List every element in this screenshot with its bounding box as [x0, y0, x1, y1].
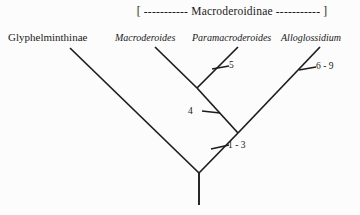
branch-macroderoides [155, 47, 197, 88]
branch-alloglossidium [238, 47, 320, 133]
character-mark-label-5: 5 [229, 60, 234, 70]
tick-mark-1-3 [211, 145, 229, 149]
cladogram-figure: [ ----------- Macroderoidinae ----------… [0, 0, 360, 215]
character-mark-label-1-3: 1 - 3 [228, 140, 245, 150]
character-mark-label-6-9: 6 - 9 [316, 61, 333, 71]
tree-branches [0, 0, 360, 215]
branch-macroderoidinae-clade [199, 133, 238, 173]
branch-glyphelminthinae [70, 48, 199, 173]
character-mark-label-4: 4 [188, 106, 193, 116]
tick-mark-5 [212, 66, 229, 69]
